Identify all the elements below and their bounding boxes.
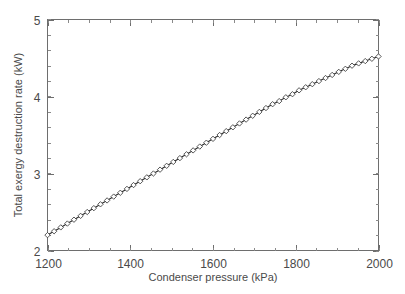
series-marker <box>250 113 255 118</box>
chart-figure: 12001400160018002000 2345 Condenser pres… <box>0 0 405 294</box>
series-marker <box>85 209 90 214</box>
series-markers <box>45 54 381 238</box>
series-marker <box>323 75 328 80</box>
series-marker <box>71 217 76 222</box>
series-marker <box>177 155 182 160</box>
y-tick-label: 3 <box>34 168 41 182</box>
series-marker <box>376 54 381 59</box>
series-marker <box>197 144 202 149</box>
series-marker <box>151 171 156 176</box>
y-axis-title: Total exergy destruction rate (kW) <box>12 53 24 217</box>
series-marker <box>224 128 229 133</box>
series-marker <box>190 148 195 153</box>
x-axis-minor-ticks <box>49 20 380 251</box>
series-marker <box>329 72 334 77</box>
series-marker <box>243 117 248 122</box>
series-marker <box>369 56 374 61</box>
y-axis-tick-labels: 2345 <box>34 14 41 259</box>
series-marker <box>237 121 242 126</box>
series-marker <box>124 186 129 191</box>
series-marker <box>157 167 162 172</box>
y-tick-label: 4 <box>34 91 41 105</box>
y-tick-label: 5 <box>34 14 41 28</box>
series-marker <box>111 194 116 199</box>
line-chart-canvas: 12001400160018002000 2345 Condenser pres… <box>0 0 405 294</box>
x-axis-major-ticks <box>49 20 380 251</box>
data-series-group <box>45 54 381 238</box>
series-marker <box>164 163 169 168</box>
series-marker <box>98 202 103 207</box>
series-marker <box>316 78 321 83</box>
series-marker <box>349 63 354 68</box>
series-marker <box>204 140 209 145</box>
x-axis-tick-labels: 12001400160018002000 <box>35 257 393 271</box>
series-marker <box>118 190 123 195</box>
x-tick-label: 1600 <box>200 257 227 271</box>
series-marker <box>277 98 282 103</box>
series-marker <box>296 88 301 93</box>
series-marker <box>310 81 315 86</box>
series-marker <box>91 205 96 210</box>
series-marker <box>78 213 83 218</box>
series-marker <box>65 221 70 226</box>
series-marker <box>58 225 63 230</box>
series-marker <box>303 85 308 90</box>
series-marker <box>137 179 142 184</box>
series-marker <box>104 198 109 203</box>
series-marker <box>356 61 361 66</box>
series-marker <box>343 66 348 71</box>
series-marker <box>144 175 149 180</box>
series-marker <box>336 69 341 74</box>
series-marker <box>263 105 268 110</box>
series-marker <box>363 58 368 63</box>
plot-frame <box>48 20 379 251</box>
series-marker <box>131 182 136 187</box>
x-tick-label: 1200 <box>35 257 62 271</box>
x-tick-label: 1400 <box>117 257 144 271</box>
series-marker <box>217 132 222 137</box>
series-marker <box>290 92 295 97</box>
x-tick-label: 1800 <box>283 257 310 271</box>
series-marker <box>45 232 50 237</box>
series-marker <box>270 102 275 107</box>
y-axis-minor-ticks <box>48 20 379 252</box>
series-marker <box>171 159 176 164</box>
y-tick-label: 2 <box>34 245 41 259</box>
x-axis-title: Condenser pressure (kPa) <box>148 271 277 283</box>
series-marker <box>210 136 215 141</box>
series-marker <box>283 95 288 100</box>
series-marker <box>51 229 56 234</box>
x-tick-label: 2000 <box>366 257 393 271</box>
series-marker <box>257 109 262 114</box>
series-marker <box>184 152 189 157</box>
series-marker <box>230 125 235 130</box>
series-line-total-exergy-destruction <box>48 56 379 235</box>
